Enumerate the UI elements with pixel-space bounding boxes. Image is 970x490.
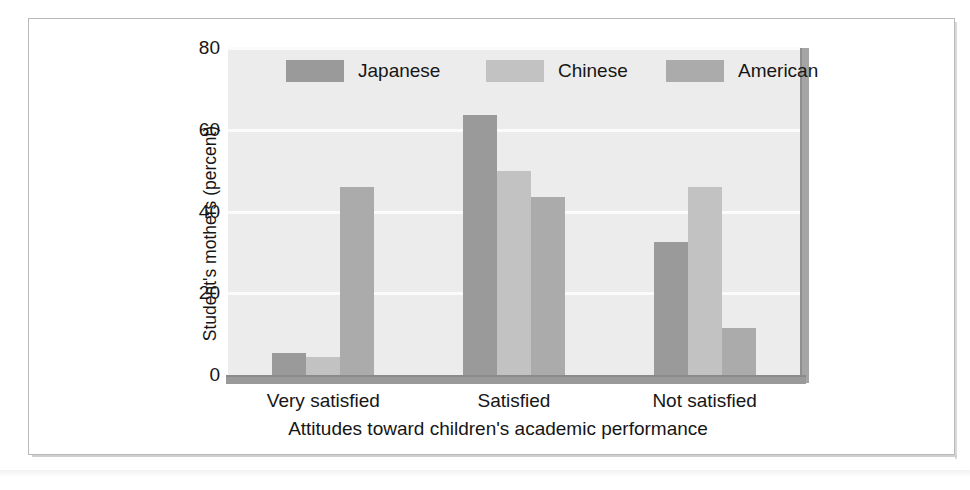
legend-label-japanese: Japanese bbox=[358, 58, 440, 84]
plot-side-wall-edge bbox=[800, 48, 802, 383]
x-category-label-not-satisfied: Not satisfied bbox=[609, 390, 800, 412]
figure-page: 020406080 Student's mothers (percent) Ja… bbox=[0, 0, 970, 490]
bar-american-satisfied bbox=[531, 197, 565, 375]
x-category-label-satisfied: Satisfied bbox=[419, 390, 610, 412]
bar-chinese-satisfied bbox=[497, 171, 531, 375]
bar-japanese-very-satisfied bbox=[272, 353, 306, 375]
bar-japanese-satisfied bbox=[463, 115, 497, 375]
bar-japanese-not-satisfied bbox=[654, 242, 688, 375]
figure-frame-shadow-bottom bbox=[32, 455, 957, 457]
figure-frame-shadow-right bbox=[955, 22, 957, 459]
legend-label-chinese: Chinese bbox=[558, 58, 628, 84]
x-axis-title: Attitudes toward children's academic per… bbox=[148, 418, 848, 440]
bar-american-very-satisfied bbox=[340, 187, 374, 375]
y-axis-title-host: Student's mothers (percent) bbox=[156, 48, 176, 378]
y-tick-label-80: 80 bbox=[174, 38, 220, 57]
legend-swatch-american bbox=[666, 60, 724, 82]
chart-legend: JapaneseChineseAmerican bbox=[228, 48, 800, 92]
bar-chinese-very-satisfied bbox=[306, 357, 340, 375]
bar-group-container bbox=[228, 48, 800, 375]
bar-chart: 020406080 Student's mothers (percent) Ja… bbox=[28, 18, 955, 455]
x-axis-category-labels: Very satisfiedSatisfiedNot satisfied bbox=[228, 390, 800, 416]
bar-american-not-satisfied bbox=[722, 328, 756, 375]
y-axis-title: Student's mothers (percent) bbox=[200, 84, 221, 384]
page-bottom-rule bbox=[0, 470, 970, 478]
bar-chinese-not-satisfied bbox=[688, 187, 722, 375]
legend-label-american: American bbox=[738, 58, 818, 84]
x-axis-baseline-edge bbox=[226, 375, 806, 377]
legend-swatch-chinese bbox=[486, 60, 544, 82]
legend-swatch-japanese bbox=[286, 60, 344, 82]
x-category-label-very-satisfied: Very satisfied bbox=[228, 390, 419, 412]
